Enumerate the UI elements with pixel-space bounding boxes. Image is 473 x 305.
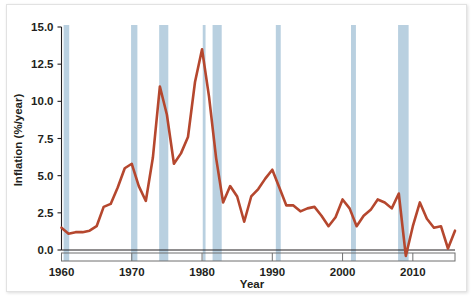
- axis-lines: [62, 27, 456, 261]
- x-tick-group: 196019701980199020002010: [49, 253, 426, 278]
- inflation-line-chart: 0.02.55.07.510.012.515.0 196019701980199…: [0, 0, 473, 305]
- y-tick-group: 0.02.55.07.510.012.515.0: [31, 21, 61, 256]
- y-tick-label: 0.0: [38, 244, 54, 256]
- recession-band: [131, 25, 137, 261]
- y-tick-label: 5.0: [38, 170, 54, 182]
- recession-band: [276, 25, 281, 261]
- x-tick-label: 1970: [119, 266, 145, 278]
- y-tick-label: 7.5: [38, 133, 55, 145]
- x-axis-rail: [62, 253, 456, 261]
- y-tick-label: 15.0: [31, 21, 53, 33]
- recession-band: [159, 25, 168, 261]
- inflation-series-line: [62, 49, 456, 256]
- x-tick-label: 2000: [330, 266, 356, 278]
- x-axis-title: Year: [240, 278, 265, 290]
- y-tick-label: 2.5: [38, 207, 55, 219]
- y-tick-label: 12.5: [31, 58, 54, 70]
- x-tick-label: 1960: [49, 266, 75, 278]
- x-tick-label: 1980: [189, 266, 215, 278]
- chart-canvas: 0.02.55.07.510.012.515.0 196019701980199…: [0, 0, 473, 305]
- y-tick-label: 10.0: [31, 95, 53, 107]
- recession-band: [64, 25, 70, 261]
- x-tick-label: 2010: [400, 266, 426, 278]
- y-axis-title: Inflation (%/year): [12, 94, 24, 187]
- x-tick-label: 1990: [260, 266, 286, 278]
